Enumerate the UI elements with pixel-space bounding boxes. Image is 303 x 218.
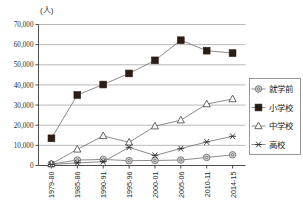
legend-marker (255, 104, 262, 111)
line-chart: (人)010,00020,00030,00040,00050,00060,000… (0, 0, 303, 218)
data-point (74, 92, 81, 99)
data-point (177, 146, 184, 152)
legend-label: 高校 (269, 140, 286, 150)
series-2 (48, 37, 236, 142)
x-axis-tick-label: 2010-11 (203, 171, 212, 197)
y-axis-tick-label: 60,000 (14, 41, 34, 49)
y-axis-tick-label: 20,000 (14, 122, 34, 130)
data-point (126, 157, 133, 164)
data-point (203, 47, 210, 54)
x-axis-tick-label: 1990-91 (99, 172, 108, 198)
y-axis-unit-label: (人) (40, 6, 54, 15)
chart-canvas: (人)010,00020,00030,00040,00050,00060,000… (0, 0, 303, 218)
legend: 就学前小学校中学校高校 (250, 79, 301, 155)
legend-marker (255, 86, 262, 93)
data-point (100, 132, 107, 139)
data-point (177, 37, 184, 44)
data-point (100, 81, 107, 88)
x-axis-group: 1979-801985-861990-911995-962000-012005-… (47, 166, 237, 198)
data-point (229, 95, 236, 102)
data-point (229, 152, 236, 159)
data-point (229, 50, 236, 57)
data-point (48, 135, 55, 142)
legend-label: 小学校 (269, 103, 294, 113)
series-line (51, 40, 232, 138)
x-axis-tick-label: 2000-01 (151, 172, 160, 198)
data-point (203, 154, 210, 161)
x-axis-tick-label: 1979-80 (47, 172, 56, 198)
data-point (152, 57, 159, 64)
x-axis-tick-label: 2005-06 (177, 172, 186, 198)
x-axis-tick-label: 1995-96 (125, 172, 134, 198)
data-point (203, 139, 210, 145)
data-point (229, 133, 236, 139)
y-axis-tick-label: 70,000 (14, 21, 34, 29)
data-point (126, 70, 133, 77)
y-axis-tick-label: 40,000 (14, 82, 34, 90)
data-point (178, 157, 185, 164)
legend-item-2[interactable]: 小学校 (252, 103, 294, 113)
x-axis-tick-label: 1985-86 (73, 172, 82, 198)
data-point (74, 145, 81, 152)
legend-item-1[interactable]: 就学前 (252, 84, 293, 94)
y-axis-tick-label: 30,000 (14, 102, 34, 110)
y-axis-tick-label: 50,000 (14, 61, 34, 69)
series-1 (48, 152, 236, 168)
y-axis-tick-label: 10,000 (14, 142, 34, 150)
legend-label: 中学校 (269, 121, 294, 131)
y-axis-tick-label: 0 (30, 162, 34, 170)
legend-label: 就学前 (269, 84, 293, 94)
x-axis-tick-label: 2014-15 (229, 172, 238, 198)
data-point (177, 116, 184, 123)
